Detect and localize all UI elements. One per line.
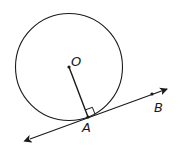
- diagram-canvas: O A B: [0, 0, 180, 159]
- point-B: [150, 92, 153, 95]
- tangent-diagram: O A B: [0, 0, 180, 159]
- radius-OA: [69, 67, 88, 117]
- tangent-line: [30, 89, 167, 139]
- label-O: O: [71, 54, 81, 69]
- label-A: A: [81, 120, 91, 135]
- label-B: B: [154, 100, 163, 115]
- point-A: [86, 115, 89, 118]
